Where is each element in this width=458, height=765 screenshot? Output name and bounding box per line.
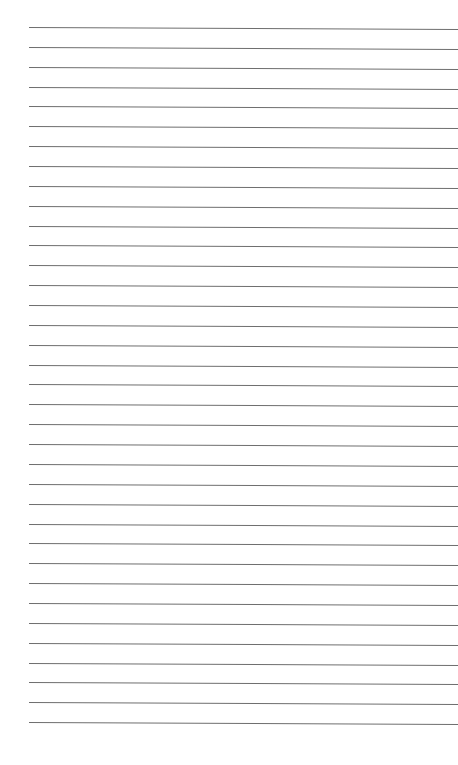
rule-line — [29, 464, 458, 467]
rule-line — [29, 563, 458, 566]
rule-line — [29, 285, 458, 288]
rule-line — [29, 623, 458, 626]
rule-line — [29, 206, 458, 209]
rule-line — [29, 682, 458, 685]
rule-line — [29, 27, 458, 30]
rule-line — [29, 67, 458, 70]
rule-line — [29, 524, 458, 527]
rule-line — [29, 484, 458, 487]
rule-line — [29, 345, 458, 348]
rule-line — [29, 47, 458, 50]
rule-line — [29, 583, 458, 586]
rule-line — [29, 325, 458, 328]
rule-line — [29, 365, 458, 368]
rule-line — [29, 146, 458, 149]
rule-line — [29, 603, 458, 606]
rule-line — [29, 404, 458, 407]
rule-line — [29, 87, 458, 90]
rule-line — [29, 663, 458, 666]
rule-line — [29, 106, 458, 109]
rule-line — [29, 444, 458, 447]
rule-line — [29, 702, 458, 705]
rule-line — [29, 384, 458, 387]
rule-line — [29, 543, 458, 546]
rule-line — [29, 504, 458, 507]
rule-line — [29, 126, 458, 129]
rule-line — [29, 424, 458, 427]
lined-paper-sheet — [0, 0, 458, 765]
rule-line — [29, 643, 458, 646]
rule-line — [29, 186, 458, 189]
rule-line — [29, 305, 458, 308]
rule-line — [29, 245, 458, 248]
rule-line — [29, 226, 458, 229]
rule-line — [29, 166, 458, 169]
rule-line — [29, 722, 458, 725]
rule-line — [29, 265, 458, 268]
